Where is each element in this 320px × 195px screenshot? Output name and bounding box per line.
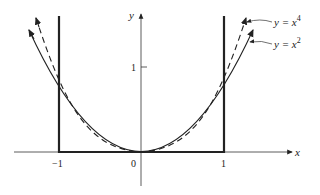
label-y-x2: y = x2	[273, 36, 301, 50]
y-axis-label: y	[128, 9, 134, 21]
x-tick-neg1: −1	[52, 158, 63, 169]
x-axis-label: x	[294, 146, 300, 158]
curve-x-fourth-left-arrow	[36, 18, 39, 27]
y-tick-label-1: 1	[131, 62, 136, 73]
curve-x-squared-left-arrow	[29, 30, 34, 39]
label-y-x4: y = x4	[273, 14, 301, 28]
leader-x2	[250, 41, 272, 44]
region-boundary	[59, 16, 224, 152]
x-tick-0: 0	[131, 158, 136, 169]
leader-x4	[247, 20, 272, 22]
chart: y = x4 y = x2 x y −1 0 1 1	[0, 0, 320, 195]
x-tick-1: 1	[221, 158, 226, 169]
plot-area: y = x4 y = x2 x y −1 0 1 1	[0, 0, 320, 195]
